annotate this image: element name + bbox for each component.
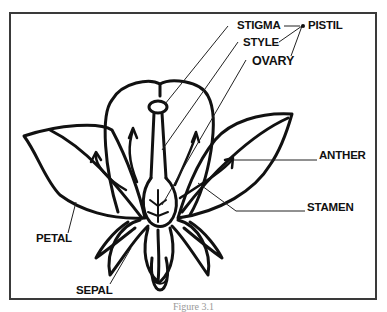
label-stamen: STAMEN — [307, 202, 354, 214]
label-sepal: SEPAL — [76, 285, 113, 297]
stigma — [149, 101, 167, 113]
label-ovary: OVARY — [252, 55, 294, 68]
left-petal — [24, 125, 145, 218]
ovary — [143, 178, 176, 227]
label-pistil: PISTIL — [308, 20, 343, 32]
label-petal: PETAL — [36, 233, 72, 245]
leader-stigma — [165, 26, 228, 104]
leader-style — [162, 42, 238, 150]
label-stigma: STIGMA — [237, 20, 281, 32]
label-style: STYLE — [243, 37, 279, 49]
leader-petal — [68, 202, 76, 233]
figure-caption: Figure 3.1 — [0, 302, 387, 312]
leader-sepal — [110, 248, 131, 284]
label-anther: ANTHER — [319, 150, 366, 162]
sepal — [109, 220, 148, 275]
style — [151, 113, 166, 178]
